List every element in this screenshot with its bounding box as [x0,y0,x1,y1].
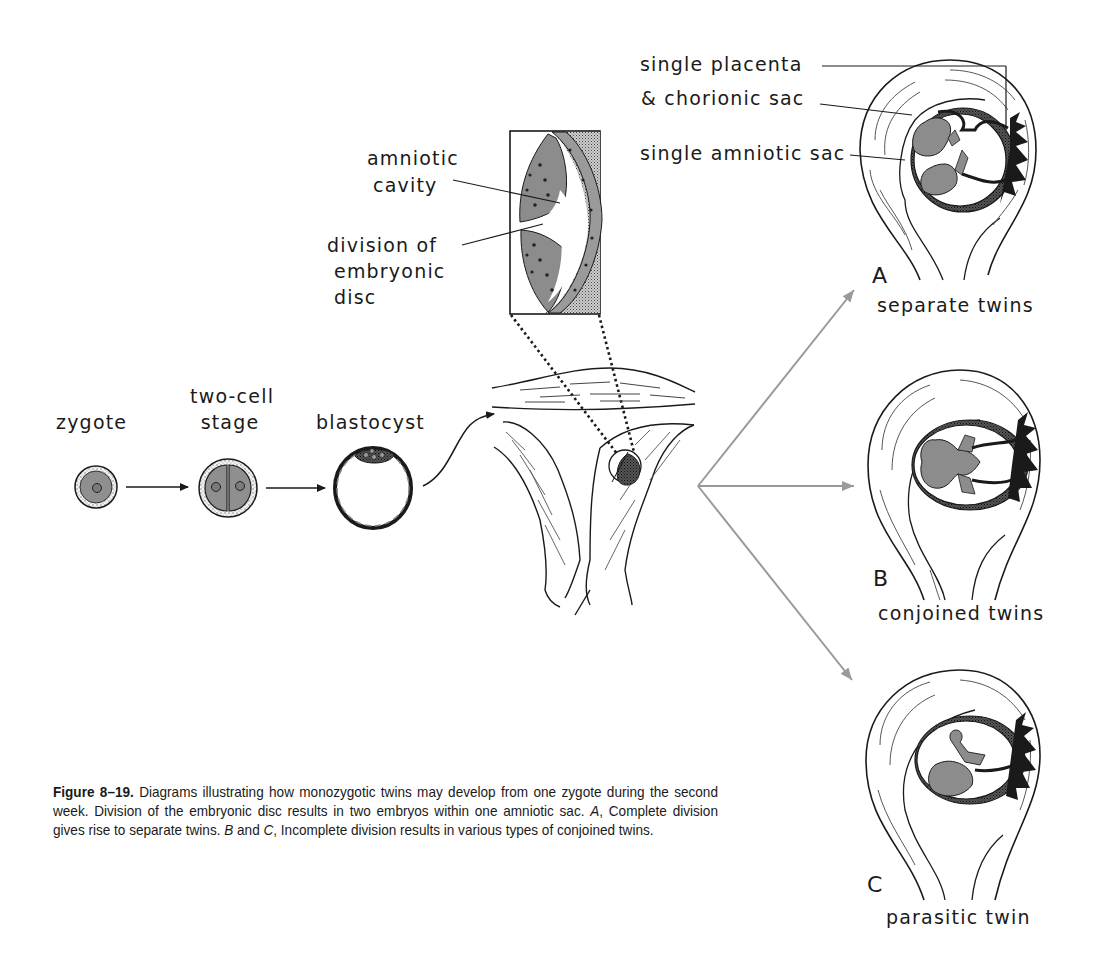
panel-a-uterus [820,60,1036,280]
panel-a-letter: A [872,263,887,288]
caption-figure-number: Figure 8–19. [53,784,134,800]
caption-ref-c: C [263,822,273,838]
panel-c-letter: C [867,872,882,897]
branch-arrows [698,290,854,680]
label-blastocyst: blastocyst [316,410,425,435]
label-amniotic-cavity-line1: amniotic [367,146,459,171]
label-two-cell-line2: stage [190,410,270,435]
panel-b-title: conjoined twins [878,601,1044,626]
uterus-implantation [492,368,695,615]
panel-a-title: separate twins [877,293,1034,318]
panel-b-uterus [868,370,1040,600]
panel-b-letter: B [873,566,888,591]
label-single-placenta-line2: & chorionic sac [641,86,804,111]
label-single-placenta-line1: single placenta [640,52,803,77]
arrow-to-panel-a [698,290,854,486]
arrow-blastocyst-to-uterus [423,414,494,486]
blastocyst [335,448,411,528]
label-zygote: zygote [56,410,127,435]
label-two-cell-line1: two-cell [190,384,270,409]
panel-c-title: parasitic twin [886,905,1031,930]
label-division-line3: disc [334,285,377,310]
figure-caption: Figure 8–19. Diagrams illustrating how m… [53,783,718,840]
label-division-line1: division of [327,233,437,258]
caption-text-3: and [233,822,263,838]
zygote-cell [75,466,117,508]
embryonic-disc-inset [453,131,634,455]
label-amniotic-cavity-line2: cavity [373,173,438,198]
label-division-line2: embryonic [334,259,446,284]
caption-ref-b: B [224,822,233,838]
arrow-to-panel-c [698,486,852,680]
two-cell-stage [199,459,257,517]
figure-8-19: zygote two-cell stage blastocyst amnioti… [0,0,1112,962]
caption-text-4: , Incomplete division results in various… [273,822,653,838]
panel-c-uterus [866,670,1040,900]
label-single-amniotic-sac: single amniotic sac [640,141,845,166]
caption-ref-a: A [590,803,599,819]
